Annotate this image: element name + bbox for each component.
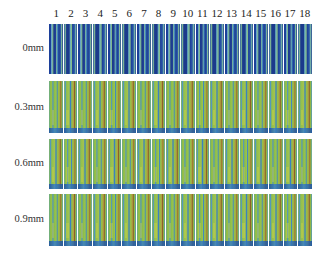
column-label: 8 [151,6,166,20]
sample-strip [210,139,224,189]
sample-strip [108,81,122,133]
sample-strip [78,24,92,74]
sample-strip [240,24,254,74]
row-label-0.3mm: 0.3mm [0,101,44,112]
sample-strip [137,81,151,133]
sample-strip [166,24,180,74]
sample-strip [93,194,107,246]
sample-strip [269,81,283,133]
sample-strip [108,139,122,189]
sample-strip [240,81,254,133]
sample-strip [166,194,180,246]
column-label: 13 [224,6,239,20]
sample-strip [196,194,210,246]
column-label: 16 [268,6,283,20]
column-label: 18 [297,6,312,20]
sample-strip [166,81,180,133]
sample-strip [181,194,195,246]
sample-strip [284,194,298,246]
sample-strip [298,24,312,74]
sample-strip [122,194,136,246]
sample-strip [196,24,210,74]
sample-strip [298,81,312,133]
sample-strip [196,139,210,189]
sample-strip [225,139,239,189]
sample-strip [298,194,312,246]
sample-strip [152,24,166,74]
row-label-0.9mm: 0.9mm [0,213,44,224]
sample-strip [93,81,107,133]
sample-strip [64,139,78,189]
sample-strip [240,139,254,189]
sample-strip [269,139,283,189]
column-label: 3 [78,6,93,20]
column-label: 11 [195,6,210,20]
sample-strip [269,194,283,246]
sample-strip [240,194,254,246]
sample-strip [64,24,78,74]
sample-strip [181,81,195,133]
sample-strip [93,24,107,74]
sample-strip [49,24,63,74]
sample-strip [181,24,195,74]
column-label: 7 [137,6,152,20]
sample-strip [64,81,78,133]
sample-strip [137,24,151,74]
sample-strip [254,24,268,74]
sample-strip [210,81,224,133]
sample-strip [269,24,283,74]
sample-strip [298,139,312,189]
sample-strip [78,194,92,246]
column-label: 17 [283,6,298,20]
image-row-0mm [49,24,312,74]
sample-strip [78,81,92,133]
sample-strip [64,194,78,246]
sample-strip [49,81,63,133]
column-label: 5 [107,6,122,20]
sample-strip [225,194,239,246]
column-label: 10 [180,6,195,20]
image-row-0.3mm [49,81,312,133]
sample-strip [225,81,239,133]
sample-strip [181,139,195,189]
sample-strip [210,24,224,74]
sample-strip [284,24,298,74]
sample-strip [254,139,268,189]
column-label: 1 [49,6,64,20]
sample-strip [93,139,107,189]
column-label: 2 [64,6,79,20]
image-row-0.6mm [49,139,312,189]
sample-strip [225,24,239,74]
column-label: 12 [210,6,225,20]
sample-strip [196,81,210,133]
sample-strip [152,81,166,133]
image-row-0.9mm [49,194,312,246]
sample-strip [166,139,180,189]
sample-strip [152,139,166,189]
sample-strip [49,139,63,189]
column-label: 14 [239,6,254,20]
sample-strip [122,24,136,74]
row-label-0mm: 0mm [0,42,44,53]
sample-strip [284,139,298,189]
sample-strip [108,194,122,246]
sample-strip [137,194,151,246]
sample-strip [137,139,151,189]
sample-strip [254,194,268,246]
sample-strip [108,24,122,74]
sample-strip [152,194,166,246]
column-label: 4 [93,6,108,20]
sample-strip [284,81,298,133]
column-label: 9 [166,6,181,20]
column-label: 6 [122,6,137,20]
column-label: 15 [254,6,269,20]
sample-strip [254,81,268,133]
sample-strip [122,139,136,189]
sample-strip [78,139,92,189]
sample-strip [122,81,136,133]
column-labels: 1 2 3 4 5 6 7 8 9 10 11 12 13 14 15 16 1… [49,6,312,20]
sample-strip [49,194,63,246]
sample-strip [210,194,224,246]
row-label-0.6mm: 0.6mm [0,157,44,168]
